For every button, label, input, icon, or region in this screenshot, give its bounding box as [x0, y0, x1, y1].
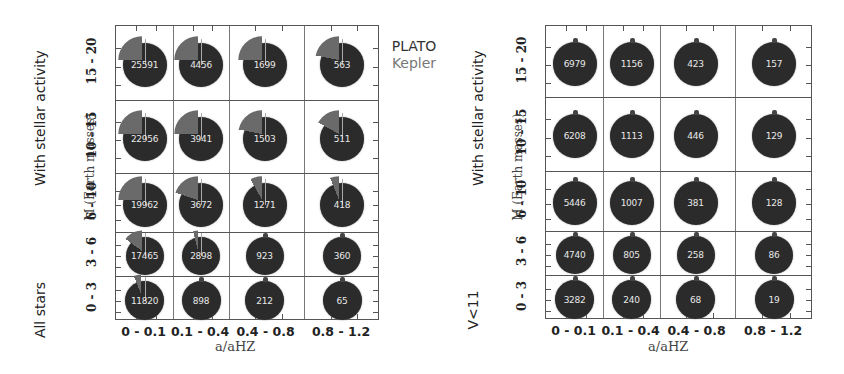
axis-tick: [373, 290, 378, 291]
axis-tick: [116, 245, 121, 246]
pie-chart-cell: 4456: [179, 43, 223, 87]
kepler-sliver: [199, 277, 204, 282]
pie-chart-cell: 157: [752, 42, 796, 86]
grid-row-divider: [546, 97, 811, 98]
axis-tick: [373, 256, 378, 257]
kepler-sliver: [573, 177, 578, 182]
y-tick-label: 10 - 15: [515, 102, 529, 162]
pie-chart-cell: 446: [674, 114, 718, 158]
kepler-sliver: [340, 233, 345, 238]
pie-value-label: 1503: [243, 134, 287, 144]
pie-value-label: 86: [755, 250, 793, 260]
axis-tick: [623, 26, 624, 31]
axis-tick: [116, 158, 121, 159]
axis-tick: [212, 26, 213, 31]
pie-chart-cell: 6979: [553, 42, 597, 86]
axis-tick: [282, 314, 283, 319]
axis-tick: [546, 65, 551, 66]
pie-chart-cell: 1156: [610, 42, 654, 86]
legend-kepler: Kepler: [385, 55, 443, 72]
pie-chart-cell: 3672: [179, 183, 223, 227]
axis-tick: [116, 85, 121, 86]
left-group-label-bottom: All stars: [32, 275, 48, 345]
pie-value-label: 3672: [179, 200, 223, 210]
pie-chart-cell: 1113: [610, 114, 654, 158]
left-group-label-top: With stellar activity: [32, 48, 48, 188]
pie-chart-cell: 4740: [556, 236, 594, 274]
left-pie-grid: 2559144561699563229563941150351119962367…: [115, 25, 379, 320]
axis-tick: [762, 26, 763, 31]
pie-chart-cell: 360: [323, 237, 361, 275]
pie-value-label: 805: [613, 250, 651, 260]
grid-row-divider: [116, 232, 378, 233]
axis-tick: [586, 26, 587, 31]
axis-tick: [546, 219, 551, 220]
x-tick-label: 0.8 - 1.2: [312, 324, 370, 339]
pie-value-label: 446: [674, 131, 718, 141]
axis-tick: [546, 255, 551, 256]
axis-tick: [373, 122, 378, 123]
pie-value-label: 4456: [179, 60, 223, 70]
pie-chart-cell: 240: [612, 280, 651, 319]
y-tick-label: 6 - 10: [515, 169, 529, 229]
pie-chart-cell: 3941: [179, 117, 223, 161]
axis-tick: [546, 300, 551, 301]
y-tick-label: 15 - 20: [85, 31, 99, 91]
axis-tick: [806, 189, 811, 190]
kepler-sliver: [630, 177, 635, 182]
pie-value-label: 923: [246, 251, 284, 261]
kepler-sliver: [573, 38, 578, 43]
x-tick-label: 0.8 - 1.2: [744, 323, 802, 338]
kepler-sliver: [694, 110, 699, 115]
pie-chart-cell: 6208: [553, 114, 597, 158]
axis-tick: [136, 26, 137, 31]
pie-chart-cell: 25591: [123, 43, 167, 87]
axis-tick: [806, 219, 811, 220]
grid-row-divider: [116, 173, 378, 174]
axis-tick: [357, 26, 358, 31]
kepler-sliver: [263, 233, 268, 238]
kepler-sliver: [694, 177, 699, 182]
pie-value-label: 258: [677, 250, 715, 260]
axis-tick: [373, 158, 378, 159]
y-tick-label: 0 - 3: [515, 266, 529, 326]
pie-chart-cell: 923: [246, 237, 284, 275]
pie-chart-cell: 19: [755, 280, 794, 319]
pie-chart-cell: 19962: [123, 183, 167, 227]
pie-value-label: 68: [676, 295, 715, 305]
axis-tick: [806, 311, 811, 312]
kepler-sliver: [573, 232, 578, 237]
kepler-sliver: [694, 38, 699, 43]
right-x-axis-title: a/aHZ: [648, 339, 688, 354]
right-pie-grid: 6979115642315762081113446129544610073811…: [545, 25, 812, 319]
pie-chart-cell: 128: [752, 181, 796, 225]
axis-tick: [331, 26, 332, 31]
pie-chart-cell: 511: [320, 117, 364, 161]
axis-tick: [806, 156, 811, 157]
kepler-sliver: [772, 38, 777, 43]
pie-value-label: 65: [323, 296, 362, 306]
axis-tick: [546, 119, 551, 120]
axis-tick: [643, 26, 644, 31]
axis-tick: [546, 138, 551, 139]
legend: PLATO Kepler: [385, 38, 443, 72]
pie-value-label: 1699: [243, 60, 287, 70]
axis-tick: [373, 312, 378, 313]
pie-chart-cell: 212: [245, 281, 284, 320]
axis-tick: [116, 256, 121, 257]
pie-value-label: 360: [323, 251, 361, 261]
x-tick-label: 0 - 0.1: [551, 323, 596, 338]
axis-tick: [156, 26, 157, 31]
axis-tick: [686, 26, 687, 31]
axis-tick: [546, 244, 551, 245]
pie-value-label: 157: [752, 59, 796, 69]
pie-value-label: 6208: [553, 131, 597, 141]
axis-tick: [806, 47, 811, 48]
axis-tick: [790, 26, 791, 31]
axis-tick: [373, 67, 378, 68]
pie-value-label: 240: [612, 295, 651, 305]
pie-chart-cell: 17465: [126, 237, 164, 275]
pie-value-label: 423: [674, 59, 718, 69]
pie-value-label: 3941: [179, 134, 223, 144]
axis-tick: [546, 311, 551, 312]
